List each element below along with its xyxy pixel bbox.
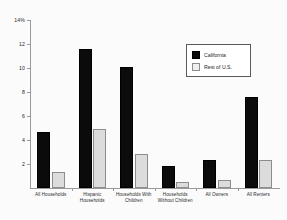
x-axis-label-line: Without Children — [155, 198, 197, 204]
legend-item-rest-of-us: Rest of U.S. — [192, 61, 250, 73]
x-axis-label: Households WithChildren — [113, 192, 155, 203]
x-axis-label-line: All Households — [30, 192, 72, 198]
legend-swatch-rest-of-us-icon — [192, 63, 200, 71]
bar-rest-of-us — [93, 129, 106, 188]
bar-rest-of-us — [52, 172, 65, 188]
y-axis-tick-label: 2 — [22, 161, 25, 167]
legend-item-california: California — [192, 49, 250, 61]
bar-california — [203, 160, 216, 188]
bar-california — [79, 49, 92, 188]
x-axis-label: All Owners — [196, 192, 238, 198]
bar-rest-of-us — [259, 160, 272, 188]
bar-rest-of-us — [135, 154, 148, 188]
legend-swatch-california-icon — [192, 51, 200, 59]
bar-rest-of-us — [176, 182, 189, 188]
y-axis-tick — [27, 44, 31, 45]
x-axis-label: HispanicHouseholds — [72, 192, 114, 203]
bar-california — [162, 166, 175, 188]
y-axis-tick-label: 8 — [22, 89, 25, 95]
x-axis-label: All Households — [30, 192, 72, 198]
x-axis-tick — [238, 188, 239, 191]
y-axis-tick — [27, 164, 31, 165]
x-axis-label-line: All Owners — [196, 192, 238, 198]
bar-california — [245, 97, 258, 188]
x-axis-label-line: All Renters — [238, 192, 280, 198]
bar-rest-of-us — [218, 180, 231, 188]
y-axis-tick — [27, 116, 31, 117]
bar-chart: 2468101214% California Rest of U.S. All … — [0, 0, 287, 220]
legend-label-california: California — [204, 52, 226, 58]
x-axis-tick — [72, 188, 73, 191]
x-axis-tick — [113, 188, 114, 191]
x-axis-label-line: Households — [72, 198, 114, 204]
chart-legend: California Rest of U.S. — [186, 44, 251, 77]
y-axis-tick-label: 12 — [19, 41, 25, 47]
y-axis-tick-label: 4 — [22, 137, 25, 143]
x-axis-tick — [196, 188, 197, 191]
x-axis-label-line: Households With — [113, 192, 155, 198]
y-axis-tick — [27, 92, 31, 93]
x-axis-tick — [155, 188, 156, 191]
x-axis-label-line: Children — [113, 198, 155, 204]
y-axis-tick-label: 14% — [14, 17, 25, 23]
bar-california — [37, 132, 50, 188]
y-axis-tick-label: 10 — [19, 65, 25, 71]
y-axis-tick — [27, 68, 31, 69]
x-axis-label: HouseholdsWithout Children — [155, 192, 197, 203]
legend-label-rest-of-us: Rest of U.S. — [204, 64, 232, 70]
bar-california — [120, 67, 133, 188]
y-axis-tick — [27, 140, 31, 141]
y-axis-tick — [27, 20, 31, 21]
y-axis-tick-label: 6 — [22, 113, 25, 119]
x-axis-label: All Renters — [238, 192, 280, 198]
